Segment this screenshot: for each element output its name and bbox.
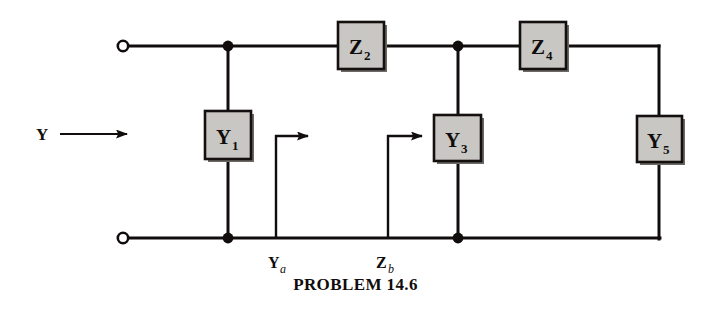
component-Y5-letter: Y [647, 129, 662, 153]
input-terminals [118, 41, 128, 243]
component-Y1: Y 1 [205, 111, 254, 162]
component-Y1-letter: Y [216, 125, 231, 149]
ya-port-arrow [276, 136, 308, 238]
component-Y5: Y 5 [637, 116, 685, 165]
node-label-Zb-subscript: b [388, 262, 394, 276]
bottom-left-terminal [118, 233, 128, 243]
component-Z4-subscript: 4 [546, 48, 553, 63]
component-Y1-subscript: 1 [232, 138, 239, 153]
source-admittance-arrow: Y [36, 125, 127, 144]
top-left-terminal [118, 41, 128, 51]
component-Z2-letter: Z [349, 35, 363, 59]
component-Y3-letter: Y [445, 128, 460, 152]
component-Z2: Z 2 [338, 22, 387, 72]
component-Y3-subscript: 3 [461, 141, 468, 156]
junction-dot-top-y3 [453, 41, 464, 52]
node-label-Zb-letter: Z [376, 254, 387, 271]
component-Z4: Z 4 [520, 22, 569, 72]
component-Y3: Y 3 [434, 115, 484, 164]
node-label-Ya: Y a [268, 254, 286, 276]
junction-dot-bottom-y1 [223, 233, 234, 244]
zb-port-arrow [388, 136, 422, 238]
component-Z4-letter: Z [531, 35, 545, 59]
node-label-Zb: Z b [376, 254, 394, 276]
port-indicator-arrows [276, 136, 422, 238]
source-label: Y [36, 125, 48, 144]
component-Y5-subscript: 5 [663, 142, 670, 157]
junction-dot-bottom-y3 [453, 233, 464, 244]
node-label-Ya-subscript: a [280, 262, 286, 276]
component-Z2-subscript: 2 [364, 48, 371, 63]
ladder-network-schematic: Y [0, 0, 711, 310]
circuit-figure: Y [0, 0, 711, 310]
node-label-Ya-letter: Y [268, 254, 280, 271]
figure-caption: PROBLEM 14.6 [0, 275, 711, 295]
junction-dot-top-y1 [223, 41, 234, 52]
